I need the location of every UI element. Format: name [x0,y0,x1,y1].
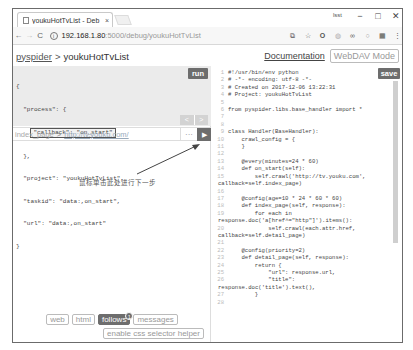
webdav-mode-button[interactable]: WebDAV Mode [330,49,399,63]
browser-tab[interactable]: youkuHotTvList - Deb × [17,12,113,27]
code-text: # -*- encoding: utf-8 -*- [228,76,312,83]
code-text: callback=self.detail_page) [218,232,305,239]
profile-name[interactable]: lsst [333,12,342,18]
code-line: 13 @every(minutes=24 * 60) [214,158,384,165]
tab-web[interactable]: web [46,314,69,325]
code-line: 14 def on_start(self): [214,165,384,172]
code-editor[interactable]: 1#!/usr/bin/env python2# -*- encoding: u… [214,69,384,306]
glasses-icon[interactable]: ∞ [348,31,357,40]
editor-scrollbar[interactable] [393,81,398,243]
code-line: 9class Handler(BaseHandler): [214,128,384,135]
translate-icon[interactable]: ⧉ [288,31,297,40]
code-text: @config(age=10 * 24 * 60 * 60) [228,195,342,202]
star-icon[interactable]: ☆ [303,31,312,40]
documentation-link[interactable]: Documentation [264,51,325,61]
line-number: 5 [214,99,224,106]
code-line: 18 def index_page(self, response): [214,202,384,209]
reload-icon[interactable]: C [35,31,46,40]
code-line: 4# Project: youkuHotTvList [214,91,384,98]
code-editor-panel: 1#!/usr/bin/env python2# -*- encoding: u… [212,66,402,343]
code-line: 15 self.crawl('http://tv.youku.com', [214,173,384,180]
code-text: # Project: youkuHotTvList [228,91,312,98]
code-text: crawl_config = { [228,136,295,143]
json-line: "taskid": "data:,on_start", [16,198,208,206]
result-tabs: web html follows1 messages [13,314,211,325]
line-number: 27 [214,291,224,298]
css-selector-helper-button[interactable]: enable css selector helper [103,328,204,339]
line-number: 9 [214,128,224,135]
code-text: callback=self.index_page) [218,180,302,187]
menu-icon[interactable]: ⋮ [393,31,402,40]
browser-window: youkuHotTvList - Deb × lsst − □ ✕ ← → C … [12,8,403,343]
breadcrumb-project: youkuHotTvList [63,51,128,62]
annotation-text: 鼠标单击此处进行下一步 [79,177,156,187]
line-number: 15 [214,173,224,180]
browser-toolbar: ← → C i 192.168.1.80:5000/debug/youkuHot… [13,27,402,45]
code-text: } [228,143,245,150]
close-window-icon[interactable]: ✕ [389,11,403,21]
extension-icon[interactable]: ◍ [333,31,342,40]
code-line: 7 [214,113,384,120]
code-line: 11 } [214,143,384,150]
forward-icon[interactable]: → [24,31,35,40]
circle-icon[interactable]: ○ [363,31,372,40]
back-icon[interactable]: ← [13,31,24,40]
line-number: 11 [214,143,224,150]
tab-close-icon[interactable]: × [102,17,112,24]
line-number: 16 [214,188,224,195]
annotation-arrow-icon [13,66,211,186]
info-icon[interactable]: i [50,32,58,40]
minimize-icon[interactable]: − [353,11,367,21]
code-text: from pyspider.libs.base_handler import * [228,106,362,113]
code-line: 8 [214,121,384,128]
save-button[interactable]: save [378,68,400,79]
json-line: "url": "data:,on_start" [16,220,208,228]
code-line: 20 self.crawl(each.attr.href, [214,225,384,232]
line-number: 21 [214,239,224,246]
code-text: return { [228,262,282,269]
code-line: 5 [214,99,384,106]
code-line: 1#!/usr/bin/env python [214,69,384,76]
code-line: 19 for each in [214,210,384,217]
line-number: 24 [214,262,224,269]
code-line: 10 crawl_config = { [214,136,384,143]
tab-html[interactable]: html [72,314,95,325]
line-number: 22 [214,247,224,254]
opera-icon[interactable]: O [318,31,327,40]
tab-title: youkuHotTvList - Deb [32,17,102,24]
box-icon[interactable]: ▦ [378,31,387,40]
code-text: #!/usr/bin/env python [228,69,299,76]
breadcrumb-home-link[interactable]: pyspider [16,51,52,62]
line-number: 14 [214,165,224,172]
code-line: 23 def detail_page(self, response): [214,254,384,261]
code-text: self.crawl(each.attr.href, [228,225,356,232]
line-number: 17 [214,195,224,202]
new-tab-button[interactable] [114,15,132,25]
line-number: 12 [214,150,224,157]
code-line: 17 @config(age=10 * 24 * 60 * 60) [214,195,384,202]
code-line: 24 return { [214,262,384,269]
code-text: class Handler(BaseHandler): [228,128,319,135]
code-line: 2# -*- encoding: utf-8 -*- [214,76,384,83]
address-bar[interactable]: i 192.168.1.80:5000/debug/youkuHotTvList [50,29,280,43]
json-line: } [16,243,208,251]
line-number: 10 [214,136,224,143]
line-number: 26 [214,276,224,283]
line-number: 19 [214,210,224,217]
url-path: :5000/debug/youkuHotTvList [105,31,200,40]
line-number: 6 [214,106,224,113]
maximize-icon[interactable]: □ [371,11,385,21]
line-number: 25 [214,269,224,276]
code-line: 28 [214,299,384,306]
code-line: 3# Created on 2017-12-06 13:22:31 [214,84,384,91]
line-number: 23 [214,254,224,261]
line-number: 8 [214,121,224,128]
debug-panel: { "process": { "callback": "on_start" },… [13,66,211,343]
tab-messages[interactable]: messages [133,314,177,325]
pyspider-header: pyspider>youkuHotTvList Documentation We… [13,46,402,66]
code-text: @every(minutes=24 * 60) [228,158,319,165]
url-host: 192.168.1.80 [62,31,106,40]
tab-follows[interactable]: follows1 [98,314,130,325]
code-line: 12 [214,150,384,157]
breadcrumb-separator: > [55,51,61,62]
